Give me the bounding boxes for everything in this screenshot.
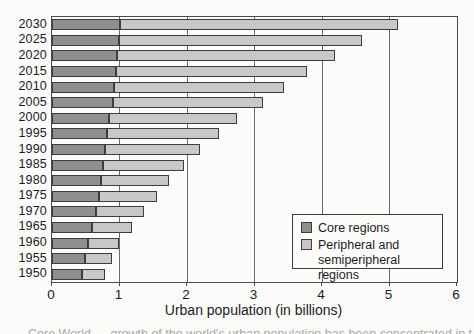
bar-segment-peripheral-1980 [101, 175, 170, 186]
y-tick-label-2010: 2010 [0, 79, 47, 93]
x-tick-3 [254, 282, 255, 286]
bar-segment-peripheral-2020 [117, 50, 334, 61]
bar-segment-peripheral-2005 [113, 97, 264, 108]
x-tick-1 [119, 282, 120, 286]
bar-segment-peripheral-1960 [88, 238, 119, 249]
y-tick-label-1965: 1965 [0, 219, 47, 233]
y-tick-label-2025: 2025 [0, 32, 47, 46]
y-tick-label-1970: 1970 [0, 204, 47, 218]
bar-segment-core-1965 [52, 222, 92, 233]
bar-segment-peripheral-2010 [114, 82, 283, 93]
bar-segment-peripheral-2015 [116, 66, 307, 77]
legend-swatch-core [301, 222, 312, 233]
bar-segment-core-2030 [52, 19, 120, 30]
bar-segment-peripheral-2000 [109, 113, 237, 124]
legend-label-peripheral: Peripheral and semiperipheral regions [318, 238, 440, 283]
y-tick-label-2030: 2030 [0, 17, 47, 31]
x-tick-label-6: 6 [452, 287, 460, 302]
bar-segment-core-1995 [52, 128, 107, 139]
legend-label-core: Core regions [318, 221, 390, 236]
y-tick-label-1980: 1980 [0, 173, 47, 187]
y-tick-label-1955: 1955 [0, 251, 47, 265]
x-tick-label-0: 0 [47, 287, 55, 302]
y-tick-label-2015: 2015 [0, 64, 47, 78]
x-tick-label-1: 1 [115, 287, 123, 302]
bar-segment-core-1980 [52, 175, 101, 186]
bar-segment-peripheral-1985 [103, 160, 184, 171]
x-axis-label: Urban population (in billions) [51, 302, 456, 318]
bar-segment-core-2025 [52, 35, 119, 46]
legend-item-peripheral: Peripheral and semiperipheral regions [301, 238, 442, 283]
bar-segment-core-1960 [52, 238, 88, 249]
x-tick-label-2: 2 [182, 287, 190, 302]
bar-segment-peripheral-1950 [82, 269, 105, 280]
bar-segment-peripheral-1990 [105, 144, 201, 155]
x-tick-label-4: 4 [317, 287, 325, 302]
bar-segment-core-1955 [52, 253, 85, 264]
bar-segment-core-1970 [52, 206, 96, 217]
bar-segment-core-2005 [52, 97, 113, 108]
bar-segment-peripheral-2030 [120, 19, 399, 30]
bar-segment-core-1975 [52, 191, 99, 202]
figure: 0123456 Urban population (in billions) C… [0, 0, 474, 334]
y-tick-label-1950: 1950 [0, 266, 47, 280]
y-tick-label-1990: 1990 [0, 142, 47, 156]
x-tick-0 [51, 282, 52, 286]
legend-swatch-peripheral [301, 239, 312, 250]
bar-segment-core-2000 [52, 113, 109, 124]
x-tick-2 [186, 282, 187, 286]
legend-item-core: Core regions [301, 221, 442, 236]
y-tick-label-1985: 1985 [0, 157, 47, 171]
bar-segment-core-1950 [52, 269, 82, 280]
x-tick-6 [456, 282, 457, 286]
y-tick-label-1975: 1975 [0, 188, 47, 202]
bar-segment-core-2010 [52, 82, 114, 93]
bar-segment-core-1990 [52, 144, 105, 155]
y-tick-label-2000: 2000 [0, 110, 47, 124]
bar-segment-peripheral-1995 [107, 128, 219, 139]
bar-segment-core-2020 [52, 50, 117, 61]
y-tick-label-1960: 1960 [0, 235, 47, 249]
y-tick-label-2005: 2005 [0, 95, 47, 109]
y-tick-label-2020: 2020 [0, 48, 47, 62]
bar-segment-peripheral-1970 [96, 206, 144, 217]
legend: Core regions Peripheral and semiperipher… [292, 214, 443, 269]
bar-segment-peripheral-2025 [119, 35, 362, 46]
x-tick-label-3: 3 [250, 287, 258, 302]
bar-segment-peripheral-1965 [92, 222, 132, 233]
bar-segment-core-2015 [52, 66, 116, 77]
x-tick-label-5: 5 [385, 287, 393, 302]
bar-segment-peripheral-1955 [85, 253, 112, 264]
bar-segment-peripheral-1975 [99, 191, 157, 202]
y-tick-label-1995: 1995 [0, 126, 47, 140]
bar-segment-core-1985 [52, 160, 103, 171]
clipped-caption: Core World — growth of the world's urban… [28, 322, 472, 334]
